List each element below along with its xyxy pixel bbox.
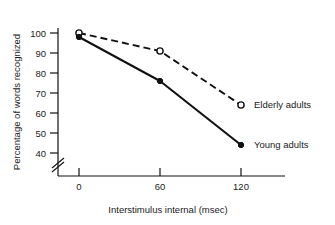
data-point-young-120 [238, 142, 243, 147]
y-tick-label-50: 50 [35, 128, 46, 139]
x-tick-label-120: 120 [233, 181, 249, 192]
data-point-young-0 [76, 34, 81, 39]
series-label-elderly-adults: Elderly adults [254, 99, 311, 110]
line-chart-figure: 100 90 80 70 60 50 40 0 60 120 Interstim… [0, 0, 335, 225]
y-tick-label-90: 90 [35, 48, 46, 59]
x-tick-label-60: 60 [155, 181, 166, 192]
data-point-elderly-120 [238, 102, 244, 108]
series-label-young-adults: Young adults [254, 139, 309, 150]
y-tick-label-100: 100 [30, 28, 46, 39]
x-tick-label-0: 0 [76, 181, 81, 192]
y-tick-label-80: 80 [35, 68, 46, 79]
x-axis-title: Interstimulus internal (msec) [108, 204, 227, 215]
series-line-elderly-adults [79, 33, 241, 105]
y-tick-label-70: 70 [35, 88, 46, 99]
y-axis-title: Percentage of words recognized [11, 34, 22, 170]
y-tick-label-40: 40 [35, 148, 46, 159]
data-point-young-60 [157, 78, 162, 83]
data-point-elderly-60 [157, 48, 163, 54]
y-tick-label-60: 60 [35, 108, 46, 119]
chart-canvas: 100 90 80 70 60 50 40 0 60 120 Interstim… [0, 0, 335, 225]
